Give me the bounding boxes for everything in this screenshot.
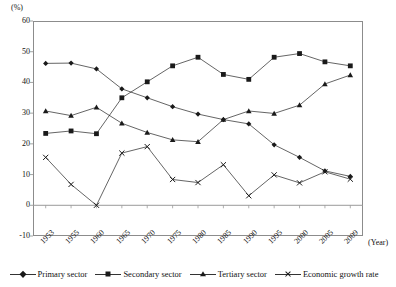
legend-label: Primary sector [38, 270, 88, 279]
chart-legend: Primary sectorSecondary sectorTertiary s… [0, 266, 396, 282]
legend-label: Economic growth rate [303, 270, 379, 279]
series-secondary-sector [43, 51, 352, 136]
chart-figure: (%) 6050403020100-10 1953195519601965197… [0, 0, 396, 287]
legend-entry[interactable]: Tertiary sector [190, 269, 275, 279]
legend-marker-diamond-icon [10, 269, 36, 279]
series-economic-growth-rate [43, 144, 353, 208]
legend-entry[interactable]: Secondary sector [95, 269, 189, 279]
legend-entry[interactable]: Economic growth rate [275, 269, 387, 279]
chart-plot-svg [0, 0, 396, 287]
series-primary-sector [43, 60, 353, 179]
legend-label: Secondary sector [123, 270, 181, 279]
legend-marker-square-icon [95, 269, 121, 279]
legend-entry[interactable]: Primary sector [10, 269, 96, 279]
legend-marker-cross-icon [275, 269, 301, 279]
legend-label: Tertiary sector [218, 270, 267, 279]
legend-marker-triangle-icon [190, 269, 216, 279]
